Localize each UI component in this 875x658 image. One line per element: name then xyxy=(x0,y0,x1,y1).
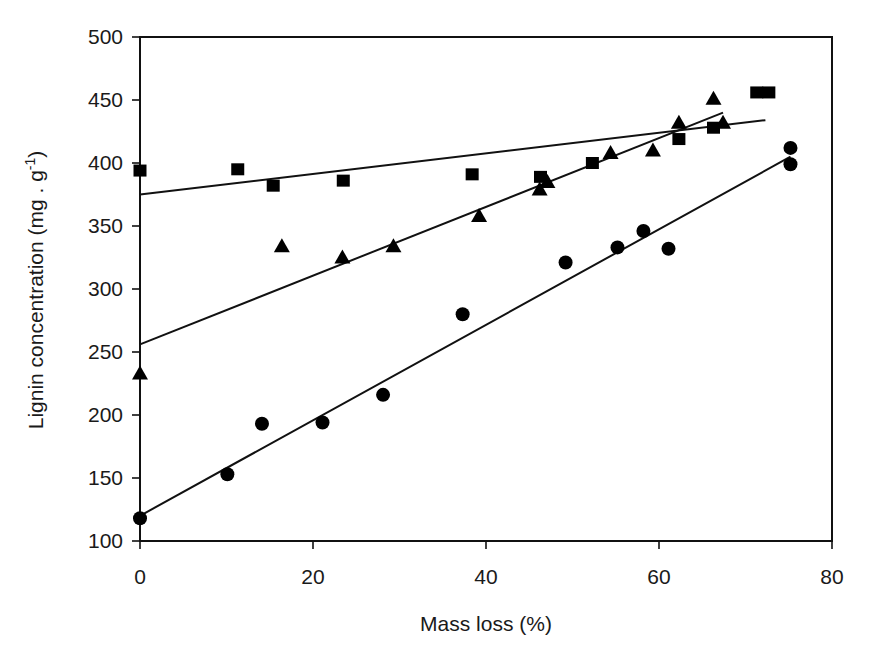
y-tick-label: 100 xyxy=(88,529,123,552)
marker-square xyxy=(134,165,147,177)
marker-square xyxy=(231,163,244,175)
marker-circle xyxy=(220,467,234,481)
regression-line-triangles xyxy=(140,113,723,345)
marker-circle xyxy=(636,224,650,238)
marker-triangle xyxy=(132,365,148,379)
marker-circle xyxy=(559,256,573,270)
y-tick-label: 500 xyxy=(88,25,123,48)
marker-triangle xyxy=(274,238,290,252)
x-tick-label: 60 xyxy=(647,565,670,588)
marker-square xyxy=(466,168,479,180)
marker-circle xyxy=(662,242,676,256)
y-tick-label: 350 xyxy=(88,214,123,237)
y-tick-label: 400 xyxy=(88,151,123,174)
marker-square xyxy=(267,180,280,192)
marker-triangle xyxy=(671,115,687,129)
y-axis-title-end: ) xyxy=(24,151,47,158)
scatter-chart: 100150200250300350400450500 020406080 Ma… xyxy=(0,0,875,658)
marker-triangle xyxy=(334,250,350,264)
regression-line-squares xyxy=(140,120,765,194)
y-tick-label: 150 xyxy=(88,466,123,489)
y-axis-title-main: Lignin concentration (mg . g xyxy=(24,170,47,429)
y-axis-title: Lignin concentration (mg . g-1) xyxy=(22,151,47,430)
x-tick-label: 0 xyxy=(134,565,146,588)
marker-circle xyxy=(610,240,624,254)
y-tick-label: 300 xyxy=(88,277,123,300)
x-tick-label: 20 xyxy=(301,565,324,588)
marker-circle xyxy=(783,157,797,171)
x-axis: 020406080 xyxy=(134,541,844,588)
marker-square xyxy=(750,86,763,98)
regression-line-circles xyxy=(140,157,790,516)
plot-border xyxy=(140,37,832,541)
marker-circle xyxy=(376,388,390,402)
marker-circle xyxy=(255,417,269,431)
x-axis-title: Mass loss (%) xyxy=(420,612,552,635)
marker-square xyxy=(762,86,775,98)
marker-circle xyxy=(316,416,330,430)
y-tick-label: 200 xyxy=(88,403,123,426)
marker-triangle xyxy=(603,145,619,159)
marker-triangle xyxy=(645,142,661,156)
y-tick-label: 450 xyxy=(88,88,123,111)
y-axis-title-sup: -1 xyxy=(22,157,38,170)
marker-triangle xyxy=(715,115,731,129)
x-tick-label: 80 xyxy=(820,565,843,588)
data-markers xyxy=(132,86,797,525)
plot-frame xyxy=(140,37,832,541)
marker-square xyxy=(586,157,599,169)
marker-triangle xyxy=(705,91,721,105)
marker-square xyxy=(672,133,685,145)
marker-circle xyxy=(456,307,470,321)
marker-circle xyxy=(133,511,147,525)
x-tick-label: 40 xyxy=(474,565,497,588)
marker-circle xyxy=(783,141,797,155)
y-tick-label: 250 xyxy=(88,340,123,363)
y-axis: 100150200250300350400450500 xyxy=(88,25,140,552)
marker-square xyxy=(337,175,350,187)
marker-triangle xyxy=(471,208,487,222)
